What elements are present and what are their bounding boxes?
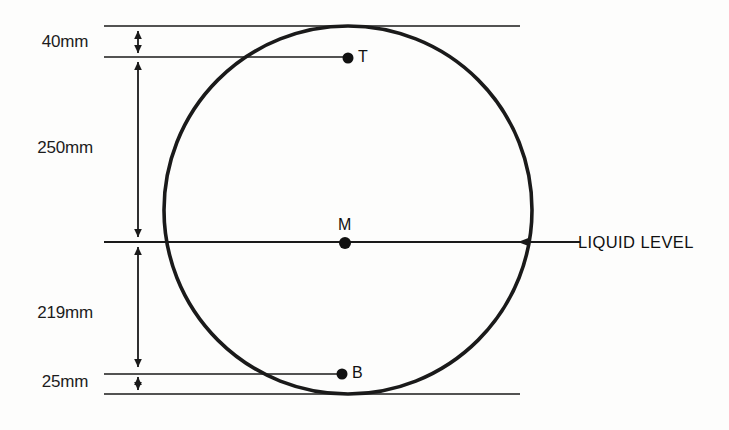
liquid-level-diagram: 40mm 250mm 219mm 25mm T M B LIQUID LEVEL: [0, 0, 729, 430]
point-t-marker: [343, 53, 354, 64]
liquid-level-annotation-label: LIQUID LEVEL: [578, 233, 694, 252]
tank-cross-section-circle: [164, 26, 532, 394]
dimension-label-top-clearance: 40mm: [15, 32, 115, 52]
point-t-label: T: [358, 48, 368, 66]
reference-lines-group: [104, 26, 580, 394]
dimension-label-bottom-clearance: 25mm: [15, 372, 115, 392]
point-b-label: B: [352, 364, 363, 382]
point-m-label: M: [338, 216, 351, 234]
dimension-label-lower-depth: 219mm: [15, 303, 115, 323]
point-b-marker: [337, 369, 348, 380]
dimension-label-upper-depth: 250mm: [15, 138, 115, 158]
point-m-marker: [339, 237, 351, 249]
